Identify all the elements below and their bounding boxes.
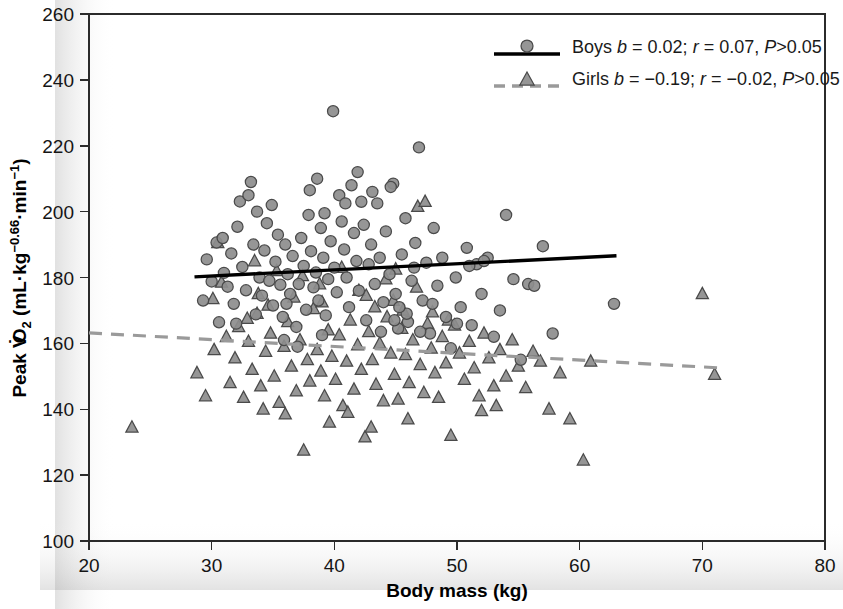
data-point-circle	[440, 311, 451, 322]
data-point-circle	[390, 288, 401, 299]
figure-container: 100120140160180200220240260 203040506070…	[0, 0, 843, 609]
data-point-circle	[325, 236, 336, 247]
data-point-circle	[305, 246, 316, 257]
data-point-circle	[319, 208, 330, 219]
data-point-circle	[608, 298, 619, 309]
x-tick-label: 30	[201, 555, 222, 576]
data-point-circle	[547, 328, 558, 339]
y-tick-label: 240	[42, 70, 74, 91]
data-point-circle	[346, 180, 357, 191]
y-tick-label: 140	[42, 399, 74, 420]
legend-marker-boys	[521, 40, 533, 52]
legend-label-boys: Boys b = 0.02; r = 0.07, P>0.05	[572, 37, 822, 57]
data-point-circle	[374, 252, 385, 263]
data-point-circle	[201, 254, 212, 265]
data-point-circle	[315, 222, 326, 233]
data-point-circle	[450, 272, 461, 283]
scan-shadow-left	[55, 0, 115, 609]
x-tick-label: 80	[814, 555, 835, 576]
x-tick-label: 70	[692, 555, 713, 576]
data-point-circle	[320, 310, 331, 321]
data-point-circle	[451, 318, 462, 329]
data-point-circle	[432, 280, 443, 291]
data-point-circle	[312, 173, 323, 184]
data-point-circle	[304, 185, 315, 196]
data-point-circle	[323, 274, 334, 285]
data-point-circle	[400, 213, 411, 224]
data-point-circle	[296, 232, 307, 243]
data-point-circle	[508, 274, 519, 285]
data-point-circle	[287, 250, 298, 261]
data-point-circle	[228, 298, 239, 309]
y-tick-label: 160	[42, 333, 74, 354]
data-point-circle	[413, 142, 424, 153]
data-point-circle	[248, 239, 259, 250]
data-point-circle	[197, 295, 208, 306]
data-point-circle	[316, 330, 327, 341]
data-point-circle	[281, 298, 292, 309]
data-point-circle	[358, 219, 369, 230]
data-point-circle	[250, 309, 261, 320]
data-point-circle	[366, 239, 377, 250]
data-point-circle	[303, 209, 314, 220]
data-point-circle	[488, 331, 499, 342]
data-point-circle	[313, 295, 324, 306]
data-point-circle	[494, 305, 505, 316]
data-point-circle	[380, 226, 391, 237]
data-point-circle	[500, 209, 511, 220]
data-point-circle	[240, 285, 251, 296]
data-point-circle	[259, 245, 270, 256]
data-point-circle	[275, 279, 286, 290]
data-point-circle	[272, 229, 283, 240]
data-point-circle	[341, 272, 352, 283]
data-point-circle	[343, 302, 354, 313]
data-point-circle	[537, 241, 548, 252]
data-point-circle	[415, 326, 426, 337]
data-point-circle	[251, 206, 262, 217]
data-point-circle	[351, 255, 362, 266]
data-point-circle	[232, 221, 243, 232]
y-axis-title: Peak V̇O2 (mL·kg−0.66·min−1)	[7, 158, 34, 397]
legend-label-girls: Girls b = −0.19; r = −0.02, P>0.05	[572, 69, 840, 89]
data-point-circle	[410, 237, 421, 248]
data-point-circle	[352, 167, 363, 178]
data-point-circle	[328, 106, 339, 117]
data-point-circle	[222, 281, 233, 292]
data-point-circle	[375, 326, 386, 337]
x-tick-label: 60	[569, 555, 590, 576]
data-point-circle	[396, 249, 407, 260]
data-point-circle	[384, 269, 395, 280]
data-point-circle	[372, 198, 383, 209]
data-point-circle	[361, 315, 372, 326]
y-tick-label: 260	[42, 4, 74, 25]
data-point-circle	[266, 199, 277, 210]
data-point-circle	[331, 287, 342, 298]
data-point-circle	[318, 252, 329, 263]
data-point-circle	[369, 278, 380, 289]
data-point-circle	[237, 261, 248, 272]
data-point-circle	[213, 317, 224, 328]
scatter-plot: 100120140160180200220240260 203040506070…	[0, 0, 843, 609]
y-tick-label: 180	[42, 268, 74, 289]
y-tick-label: 220	[42, 136, 74, 157]
data-point-circle	[217, 232, 228, 243]
data-point-circle	[264, 275, 275, 286]
data-point-circle	[367, 186, 378, 197]
data-point-circle	[455, 302, 466, 313]
data-point-circle	[437, 252, 448, 263]
data-point-circle	[394, 302, 405, 313]
data-point-circle	[385, 181, 396, 192]
data-point-circle	[348, 227, 359, 238]
x-tick-label: 50	[446, 555, 467, 576]
x-tick-label: 40	[324, 555, 345, 576]
data-point-circle	[226, 248, 237, 259]
data-point-circle	[336, 216, 347, 227]
data-point-circle	[293, 278, 304, 289]
y-tick-label: 100	[42, 531, 74, 552]
data-point-circle	[277, 311, 288, 322]
data-point-circle	[529, 280, 540, 291]
data-point-circle	[270, 256, 281, 267]
data-point-circle	[340, 198, 351, 209]
data-point-circle	[476, 288, 487, 299]
data-point-circle	[245, 176, 256, 187]
